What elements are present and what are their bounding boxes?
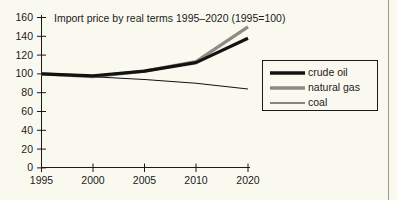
series-line-crude-oil [42, 38, 249, 76]
y-tick-label-100: 100 [15, 67, 33, 79]
x-tick-label-2000: 2000 [81, 174, 105, 186]
y-tick-label-80: 80 [21, 86, 33, 98]
y-tick-label-160: 160 [15, 11, 33, 23]
chart-svg: 160 140 120 100 80 60 40 20 0 1995 2000 … [0, 0, 397, 200]
y-tick-label-60: 60 [21, 105, 33, 117]
x-tick-label-2005: 2005 [133, 174, 157, 186]
legend-label-natural-gas: natural gas [308, 81, 360, 93]
y-tick-label-0: 0 [27, 161, 33, 173]
x-tick-label-2010: 2010 [184, 174, 208, 186]
x-tick-label-2020: 2020 [236, 174, 260, 186]
y-tick-label-120: 120 [15, 49, 33, 61]
legend-label-coal: coal [308, 96, 327, 108]
y-tick-label-40: 40 [21, 124, 33, 136]
y-tick-label-140: 140 [15, 30, 33, 42]
line-chart: 160 140 120 100 80 60 40 20 0 1995 2000 … [0, 0, 397, 200]
legend-label-crude-oil: crude oil [308, 66, 348, 78]
chart-screenshot: 160 140 120 100 80 60 40 20 0 1995 2000 … [0, 0, 397, 200]
chart-title: Import price by real terms 1995–2020 (19… [54, 12, 285, 24]
x-tick-label-1995: 1995 [30, 174, 54, 186]
y-tick-label-20: 20 [21, 143, 33, 155]
legend: crude oil natural gas coal [263, 61, 378, 111]
series-group [42, 27, 249, 89]
